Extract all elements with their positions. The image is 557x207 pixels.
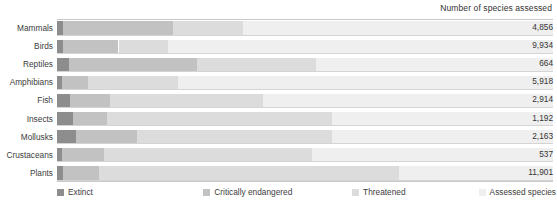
bar-segment-threatened <box>137 130 332 143</box>
row-value: 2,914 <box>532 91 553 109</box>
bar-segment-critically-endangered <box>70 94 110 107</box>
stacked-bar <box>57 21 553 35</box>
bar-segment-assessed-species <box>168 40 553 53</box>
bar-segment-critically-endangered <box>69 58 197 71</box>
table-row: Birds9,934 <box>0 37 557 55</box>
bar-segment-assessed-species <box>332 130 553 143</box>
bar-segment-threatened <box>107 112 332 125</box>
row-value: 11,901 <box>528 164 553 182</box>
bar-segment-critically-endangered <box>63 21 173 34</box>
bar-segment-assessed-species <box>263 94 553 107</box>
bar-segment-extinct <box>57 94 70 107</box>
category-label: Crustaceans <box>0 146 53 164</box>
bar-segment-extinct <box>57 130 76 143</box>
stacked-bar <box>57 166 553 180</box>
bar-segment-assessed-species <box>178 76 553 89</box>
table-row: Amphibians5,918 <box>0 73 557 91</box>
legend-label: Threatened <box>363 188 405 197</box>
table-row: Fish2,914 <box>0 91 557 109</box>
row-value: 4,856 <box>532 19 553 37</box>
bar-segment-extinct <box>57 58 69 71</box>
table-row: Reptiles664 <box>0 55 557 73</box>
bar-segment-threatened <box>104 148 312 161</box>
row-value: 1,192 <box>532 110 553 128</box>
bar-segment-threatened <box>110 94 263 107</box>
category-label: Mollusks <box>0 128 53 146</box>
chart-legend: ExtinctCritically endangeredThreatenedAs… <box>57 188 553 202</box>
bar-segment-critically-endangered <box>63 40 118 53</box>
row-value: 5,918 <box>532 73 553 91</box>
stacked-bar <box>57 94 553 108</box>
bar-segment-critically-endangered <box>73 112 107 125</box>
legend-item: Threatened <box>352 188 405 197</box>
row-value: 537 <box>539 146 553 164</box>
legend-label: Critically endangered <box>214 188 292 197</box>
legend-swatch-icon <box>352 189 359 196</box>
category-label: Birds <box>0 37 53 55</box>
table-row: Mollusks2,163 <box>0 128 557 146</box>
bar-segment-assessed-species <box>316 58 553 71</box>
category-label: Plants <box>0 164 53 182</box>
category-label: Reptiles <box>0 55 53 73</box>
legend-label: Extinct <box>68 188 93 197</box>
table-row: Crustaceans537 <box>0 146 557 164</box>
stacked-bar <box>57 76 553 90</box>
stacked-bar <box>57 148 553 162</box>
bar-segment-threatened <box>119 40 168 53</box>
chart-title: Number of species assessed <box>440 3 552 13</box>
bar-segment-extinct <box>57 112 73 125</box>
bar-segment-threatened <box>99 166 399 179</box>
species-assessment-chart: Number of species assessed Mammals4,856B… <box>0 0 557 207</box>
row-value: 9,934 <box>532 37 553 55</box>
category-label: Insects <box>0 110 53 128</box>
bar-segment-threatened <box>88 76 177 89</box>
category-label: Fish <box>0 91 53 109</box>
row-value: 664 <box>539 55 553 73</box>
stacked-bar <box>57 40 553 54</box>
bar-segment-critically-endangered <box>76 130 137 143</box>
legend-label: Assessed species <box>490 188 556 197</box>
bar-segment-assessed-species <box>312 148 553 161</box>
category-label: Amphibians <box>0 73 53 91</box>
bar-segment-critically-endangered <box>62 148 103 161</box>
bar-segment-assessed-species <box>243 21 553 34</box>
stacked-bar <box>57 58 553 72</box>
legend-swatch-icon <box>479 189 486 196</box>
table-row: Mammals4,856 <box>0 19 557 37</box>
table-row: Plants11,901 <box>0 164 557 182</box>
stacked-bar <box>57 112 553 126</box>
bar-segment-threatened <box>197 58 317 71</box>
category-label: Mammals <box>0 19 53 37</box>
bar-segment-assessed-species <box>332 112 553 125</box>
bar-segment-threatened <box>173 21 243 34</box>
legend-swatch-icon <box>57 189 64 196</box>
bar-segment-critically-endangered <box>63 166 99 179</box>
stacked-bar <box>57 130 553 144</box>
row-value: 2,163 <box>532 128 553 146</box>
bar-segment-critically-endangered <box>62 76 88 89</box>
legend-item: Extinct <box>57 188 93 197</box>
bar-rows: Mammals4,856Birds9,934Reptiles664Amphibi… <box>0 19 557 182</box>
legend-swatch-icon <box>203 189 210 196</box>
legend-item: Assessed species <box>479 188 556 197</box>
legend-item: Critically endangered <box>203 188 292 197</box>
table-row: Insects1,192 <box>0 110 557 128</box>
